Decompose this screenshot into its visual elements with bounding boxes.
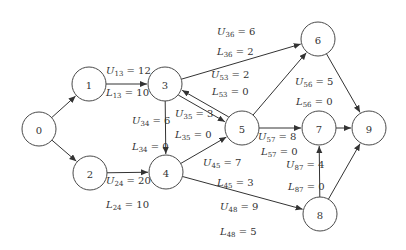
edge-label-u24: U24 = 20 bbox=[106, 176, 151, 188]
edge-2-4 bbox=[107, 172, 148, 173]
edge-label-l87: L87 = 0 bbox=[288, 182, 325, 194]
edge-label-l56: L56 = 0 bbox=[296, 97, 333, 109]
edge-label-l57: L57 = 0 bbox=[261, 147, 298, 159]
edge-8-9 bbox=[328, 144, 360, 200]
edge-label-l24: L24 = 10 bbox=[106, 200, 149, 212]
node-label: 3 bbox=[162, 80, 168, 91]
edge-0-2 bbox=[52, 140, 76, 161]
edge-label-u56: U56 = 5 bbox=[295, 77, 333, 89]
nodes: 0123456789 bbox=[22, 22, 386, 231]
node-label: 6 bbox=[315, 35, 321, 46]
edge-label-u87: U87 = 4 bbox=[286, 160, 324, 172]
network-diagram: 0123456789 U13 = 12 L13 = 10 U24 = 20 L2… bbox=[0, 0, 406, 250]
edge-label-l36: L36 = 2 bbox=[217, 47, 254, 59]
node-1: 1 bbox=[72, 67, 106, 101]
node-8: 8 bbox=[303, 197, 337, 231]
edge-label-u36: U36 = 6 bbox=[217, 27, 255, 39]
node-2: 2 bbox=[73, 156, 107, 190]
node-label: 4 bbox=[163, 168, 169, 179]
node-3: 3 bbox=[148, 67, 182, 101]
edge-label-u13: U13 = 12 bbox=[106, 66, 151, 78]
edge-label-l13: L13 = 10 bbox=[106, 88, 149, 100]
edge-label-l34: L34 = 0 bbox=[132, 142, 169, 154]
edge-label-u35: U35 = 3 bbox=[175, 109, 213, 121]
edge-label-u57: U57 = 8 bbox=[258, 132, 296, 144]
edge-label-u53: U53 = 2 bbox=[211, 70, 249, 82]
edge-0-1 bbox=[52, 96, 76, 118]
edge-label-u45: U45 = 7 bbox=[203, 158, 241, 170]
node-7: 7 bbox=[302, 111, 336, 145]
diagram-svg: 0123456789 bbox=[0, 0, 406, 250]
node-0: 0 bbox=[22, 112, 56, 146]
edge-label-l48: L48 = 5 bbox=[220, 227, 257, 239]
node-label: 7 bbox=[316, 124, 322, 135]
node-5: 5 bbox=[225, 111, 259, 145]
node-label: 9 bbox=[366, 124, 372, 135]
node-9: 9 bbox=[352, 111, 386, 145]
node-4: 4 bbox=[149, 155, 183, 189]
edge-label-l53: L53 = 0 bbox=[212, 87, 249, 99]
node-label: 1 bbox=[86, 80, 92, 91]
node-label: 8 bbox=[317, 210, 323, 221]
edge-label-u34: U34 = 6 bbox=[132, 116, 170, 128]
node-label: 5 bbox=[239, 124, 245, 135]
node-label: 2 bbox=[87, 169, 93, 180]
edge-label-l35: L35 = 0 bbox=[175, 130, 212, 142]
node-6: 6 bbox=[301, 22, 335, 56]
edge-label-l45: L45 = 3 bbox=[217, 178, 254, 190]
edge-label-u48: U48 = 9 bbox=[220, 202, 258, 214]
node-label: 0 bbox=[36, 125, 42, 136]
